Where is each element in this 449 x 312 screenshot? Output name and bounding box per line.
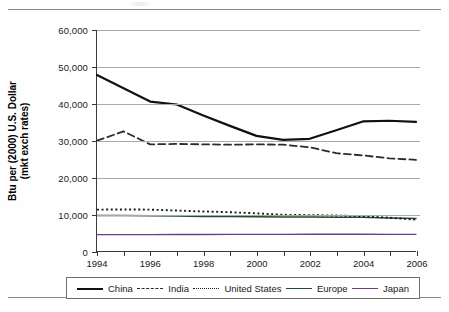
- legend-swatch-china-icon: [77, 284, 103, 292]
- y-axis-title-line2: (mkt exch rates): [19, 103, 30, 180]
- legend-item-india[interactable]: India: [137, 283, 189, 294]
- legend-label-japan: Japan: [383, 283, 409, 294]
- x-axis-tick-label: 2002: [300, 258, 321, 269]
- gridline: [97, 178, 420, 179]
- y-axis-tick: [92, 30, 97, 31]
- series-line-china: [97, 75, 416, 140]
- x-axis-tick: [204, 251, 205, 256]
- x-axis-tick: [364, 251, 365, 256]
- x-axis-tick: [230, 251, 231, 256]
- y-axis-tick: [92, 67, 97, 68]
- y-axis-tick: [92, 215, 97, 216]
- legend-item-united-states[interactable]: United States: [193, 283, 281, 294]
- x-axis-tick: [310, 251, 311, 256]
- chart-legend: China India United States Europe Japan: [66, 277, 420, 299]
- legend-item-japan[interactable]: Japan: [352, 283, 409, 294]
- x-axis-tick: [390, 251, 391, 256]
- x-axis-tick: [150, 251, 151, 256]
- x-axis-tick-label: 1998: [193, 258, 214, 269]
- x-axis-tick-label: 1994: [86, 258, 107, 269]
- chart-page: Btu per (2000) U.S. Dollar (mkt exch rat…: [0, 0, 449, 312]
- legend-swatch-japan-icon: [352, 284, 378, 292]
- legend-swatch-united-states-icon: [193, 284, 219, 292]
- y-axis-title: Btu per (2000) U.S. Dollar (mkt exch rat…: [6, 30, 32, 252]
- x-axis-tick: [97, 251, 98, 256]
- x-axis-tick: [257, 251, 258, 256]
- y-axis-title-line1: Btu per (2000) U.S. Dollar: [7, 81, 18, 201]
- gridline: [97, 141, 420, 142]
- y-axis-tick: [92, 104, 97, 105]
- legend-item-europe[interactable]: Europe: [286, 283, 348, 294]
- legend-swatch-europe-icon: [286, 284, 312, 292]
- y-axis-tick-label: 0: [83, 247, 88, 258]
- x-axis-tick: [284, 251, 285, 256]
- legend-swatch-india-icon: [137, 284, 163, 292]
- plot-frame: 010,00020,00030,00040,00050,00060,000199…: [96, 30, 416, 252]
- y-axis-tick: [92, 178, 97, 179]
- gridline: [97, 215, 420, 216]
- x-axis-tick-label: 2006: [406, 258, 427, 269]
- y-axis-tick-label: 40,000: [58, 99, 88, 110]
- gridline: [97, 104, 420, 105]
- x-axis-tick-label: 1996: [140, 258, 161, 269]
- x-axis-tick-label: 2000: [246, 258, 267, 269]
- y-axis-tick-label: 60,000: [58, 25, 88, 36]
- x-axis-tick-label: 2004: [353, 258, 374, 269]
- y-axis-tick-label: 50,000: [58, 62, 88, 73]
- x-axis-tick: [124, 251, 125, 256]
- page-header-ghost-text: [10, 2, 437, 6]
- legend-label-europe: Europe: [317, 283, 348, 294]
- legend-item-china[interactable]: China: [77, 283, 133, 294]
- legend-label-united-states: United States: [224, 283, 281, 294]
- top-horizontal-rule: [8, 9, 441, 10]
- chart-plot-area: 010,00020,00030,00040,00050,00060,000199…: [96, 30, 416, 252]
- y-axis-tick: [92, 141, 97, 142]
- gridline: [97, 67, 420, 68]
- y-axis-tick-label: 30,000: [58, 136, 88, 147]
- y-axis-tick-label: 10,000: [58, 210, 88, 221]
- x-axis-tick: [177, 251, 178, 256]
- x-axis-tick: [417, 251, 418, 256]
- gridline: [97, 30, 420, 31]
- legend-label-india: India: [168, 283, 189, 294]
- figure: Btu per (2000) U.S. Dollar (mkt exch rat…: [0, 12, 449, 294]
- y-axis-tick-label: 20,000: [58, 173, 88, 184]
- x-axis-tick: [337, 251, 338, 256]
- legend-label-china: China: [108, 283, 133, 294]
